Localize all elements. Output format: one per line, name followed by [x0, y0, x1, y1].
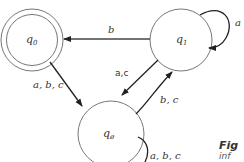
- edge-q1-qempty: a,c: [115, 60, 158, 95]
- edge-qempty-q1: b, c: [136, 72, 179, 114]
- edge-qempty-q1-label: b, c: [160, 94, 179, 105]
- edge-q1-qempty-label: a,c: [115, 68, 128, 78]
- edge-q1-loop: a: [200, 11, 241, 48]
- figure-caption-subtitle: inf: [219, 151, 230, 161]
- edge-q1-loop-label: a: [235, 17, 241, 28]
- state-q1: q1: [150, 9, 212, 71]
- edge-q1-q0-label: b: [108, 24, 114, 35]
- automaton-diagram: q0 q1 qø b a a, b, c a,c b, c a, b, c: [0, 0, 244, 162]
- state-q1-label: q1: [176, 33, 188, 47]
- edge-q1-q0: b: [64, 24, 150, 39]
- edge-q0-qempty-label: a, b, c: [33, 79, 64, 90]
- state-qempty-label: qø: [103, 127, 115, 141]
- state-qempty: qø: [78, 101, 144, 162]
- state-q0-label: q0: [26, 33, 38, 47]
- edge-qempty-loop: a, b, c: [138, 137, 181, 162]
- edge-qempty-loop-label: a, b, c: [150, 150, 181, 161]
- state-q0: q0: [1, 9, 63, 71]
- edge-q0-qempty: a, b, c: [33, 62, 82, 106]
